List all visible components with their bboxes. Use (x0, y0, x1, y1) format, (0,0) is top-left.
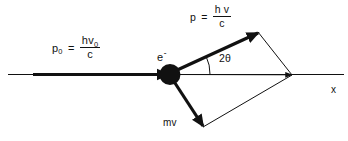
electron-label: e- (157, 52, 166, 63)
fraction-denominator: c (213, 17, 232, 29)
electron-charge-sign: - (164, 49, 167, 58)
scattered-photon-label: p = h v c (190, 5, 231, 29)
fraction-numerator: hv0 (80, 35, 100, 48)
fraction-numerator: h v (213, 4, 232, 17)
equals-sign: = (68, 43, 75, 54)
incident-photon-fraction: hv0 c (80, 35, 100, 60)
recoil-electron-label: mv (163, 118, 177, 128)
x-axis-label: x (331, 85, 336, 95)
scattered-photon-symbol: p (190, 12, 196, 23)
scattering-angle-arc (206, 56, 210, 74)
scattering-angle-label: 2θ (219, 53, 231, 64)
parallelogram-upper-edge (258, 32, 292, 75)
scattered-photon-vector (175, 33, 258, 71)
fraction-denominator: c (80, 48, 100, 60)
electron-symbol: e (157, 51, 163, 63)
physics-diagram: p0 = hv0 c p = h v c e- 2θ mv x (0, 0, 348, 141)
incident-photon-symbol: p0 (52, 43, 63, 54)
incident-photon-label: p0 = hv0 c (52, 36, 100, 61)
equals-sign: = (201, 12, 207, 23)
recoil-electron-vector (173, 80, 203, 126)
parallelogram-lower-edge (203, 75, 292, 127)
electron-dot (160, 64, 181, 85)
scattered-photon-fraction: h v c (213, 4, 232, 28)
